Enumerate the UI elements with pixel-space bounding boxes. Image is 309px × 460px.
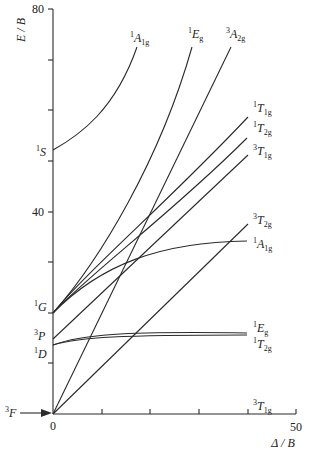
state-label-3T1g-ground: 3T1g bbox=[253, 398, 272, 415]
state-label-1T2g: 1T2g bbox=[253, 120, 272, 137]
curve-3T2g bbox=[53, 224, 248, 414]
state-label-1T1g: 1T1g bbox=[253, 100, 272, 117]
ground-term-arrow bbox=[20, 409, 52, 417]
term-label-1G: 1G bbox=[34, 299, 47, 314]
state-label-1T2g-low: 1T2g bbox=[253, 336, 272, 353]
term-label-3F: 3F bbox=[5, 405, 17, 420]
term-label-1S: 1S bbox=[36, 144, 46, 159]
curve-1T2g-lower bbox=[53, 335, 247, 345]
x-tick-label-50: 50 bbox=[290, 420, 302, 434]
state-label-1A1g-top: 1A1g bbox=[130, 30, 149, 47]
y-axis-title: E / B bbox=[14, 17, 28, 43]
term-label-3P: 3P bbox=[34, 328, 46, 343]
curve-1T1g bbox=[53, 117, 248, 313]
state-label-1Eg-right: 1Eg bbox=[253, 320, 268, 337]
state-label-3T1g: 3T1g bbox=[253, 143, 272, 160]
state-label-1A1g-right: 1A1g bbox=[253, 236, 272, 253]
state-label-1Eg-top: 1Eg bbox=[188, 26, 203, 43]
state-label-3A2g-top: 3A2g bbox=[226, 26, 245, 43]
y-tick-label-80: 80 bbox=[32, 2, 44, 16]
tanabe-sugano-diagram: 80 40 0 50 E / B Δ / B 1S 1G 3P 1D 3F bbox=[0, 0, 309, 460]
term-label-1D: 1D bbox=[34, 346, 47, 361]
x-axis-title: Δ / B bbox=[270, 436, 295, 450]
y-tick-label-40: 40 bbox=[32, 205, 44, 219]
state-label-3T2g: 3T2g bbox=[253, 212, 272, 229]
curve-3T1g-upper bbox=[53, 155, 248, 339]
curve-1T2g-upper bbox=[53, 138, 247, 313]
axes bbox=[48, 9, 296, 414]
curve-3A2g bbox=[53, 47, 231, 414]
curve-1Eg-lower bbox=[53, 333, 247, 346]
energy-curves bbox=[53, 47, 248, 414]
curve-1A1g-upper bbox=[53, 47, 137, 150]
x-tick-label-0: 0 bbox=[50, 419, 56, 433]
